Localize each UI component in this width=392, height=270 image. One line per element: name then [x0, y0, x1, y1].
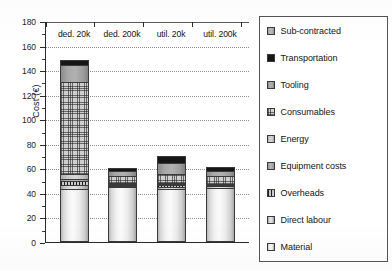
segment-direct-labour	[108, 186, 137, 188]
segment-tooling	[206, 171, 235, 176]
segment-transportation	[206, 167, 235, 171]
legend-item-direct-labour[interactable]: Direct labour	[267, 214, 331, 226]
legend-item-material[interactable]: Material	[267, 241, 312, 253]
legend-swatch-tooling-icon	[267, 81, 275, 89]
legend-label-sub-contracted: Sub-contracted	[281, 27, 341, 36]
legend-item-sub-contracted[interactable]: Sub-contracted	[267, 25, 341, 37]
legend-swatch-equipment-costs-icon	[267, 162, 275, 170]
segment-tooling	[108, 171, 137, 175]
legend-label-transportation: Transportation	[281, 54, 338, 63]
legend-label-equipment-costs: Equipment costs	[281, 162, 347, 171]
y-tick-label-60: 60	[2, 165, 36, 174]
chart-figure: Cost (€) 180 160 140 120 100 80 60 40 20…	[0, 0, 392, 270]
segment-material	[157, 189, 186, 242]
plot-area: ded. 20k ded. 200k util. 20k util. 200k	[45, 22, 249, 243]
segment-equipment-costs	[206, 184, 235, 185]
segment-equipment-costs	[60, 179, 89, 181]
segment-overheads	[108, 185, 137, 186]
legend-item-transportation[interactable]: Transportation	[267, 52, 338, 64]
legend-swatch-direct-labour-icon	[267, 216, 275, 224]
legend-item-overheads[interactable]: Overheads	[267, 187, 324, 199]
segment-equipment-costs	[108, 184, 137, 185]
segment-transportation	[157, 156, 186, 163]
segment-tooling	[60, 65, 89, 82]
y-tick-label-0: 0	[2, 239, 36, 248]
segment-transportation	[60, 60, 89, 66]
gridline-180	[46, 22, 249, 23]
segment-direct-labour	[206, 186, 235, 188]
segment-energy	[60, 174, 89, 178]
legend-swatch-overheads-icon	[267, 189, 275, 197]
segment-direct-labour	[157, 187, 186, 189]
segment-material	[206, 188, 235, 242]
y-tick-label-20: 20	[2, 214, 36, 223]
gridline-160	[46, 47, 249, 48]
segment-consumables	[157, 174, 186, 183]
x-tick-mark-1	[94, 22, 95, 27]
legend-item-energy[interactable]: Energy	[267, 133, 309, 145]
legend-label-consumables: Consumables	[281, 108, 335, 117]
segment-direct-labour	[60, 185, 89, 189]
legend-label-direct-labour: Direct labour	[281, 216, 331, 225]
legend-item-tooling[interactable]: Tooling	[267, 79, 309, 91]
segment-overheads	[60, 181, 89, 185]
segment-equipment-costs	[157, 184, 186, 185]
segment-energy	[157, 183, 186, 184]
y-tick-label-80: 80	[2, 141, 36, 150]
y-tick-label-100: 100	[2, 116, 36, 125]
legend-swatch-energy-icon	[267, 135, 275, 143]
x-axis-label-util-200k: util. 200k	[183, 29, 257, 39]
x-tick-mark-3	[192, 22, 193, 27]
chart-legend: Sub-contracted Transportation Tooling Co…	[259, 16, 388, 262]
segment-consumables	[60, 82, 89, 174]
x-tick-mark-4	[241, 22, 242, 27]
legend-item-equipment-costs[interactable]: Equipment costs	[267, 160, 346, 172]
legend-label-overheads: Overheads	[281, 189, 325, 198]
segment-overheads	[206, 185, 235, 186]
legend-swatch-sub-contracted-icon	[267, 27, 275, 35]
y-tick-label-120: 120	[2, 92, 36, 101]
y-tick-label-40: 40	[2, 190, 36, 199]
legend-swatch-consumables-icon	[267, 108, 275, 116]
segment-consumables	[206, 176, 235, 184]
x-tick-mark-2	[143, 22, 144, 27]
segment-material	[60, 189, 89, 242]
legend-label-tooling: Tooling	[281, 81, 309, 90]
legend-swatch-transportation-icon	[267, 54, 275, 62]
legend-item-consumables[interactable]: Consumables	[267, 106, 335, 118]
y-tick-mark-0	[40, 243, 45, 244]
legend-label-material: Material	[281, 243, 313, 252]
y-tick-label-140: 140	[2, 67, 36, 76]
segment-overheads	[157, 185, 186, 186]
segment-material	[108, 187, 137, 242]
legend-swatch-material-icon	[267, 243, 275, 251]
segment-transportation	[108, 168, 137, 171]
y-tick-label-180: 180	[2, 18, 36, 27]
legend-label-energy: Energy	[281, 135, 309, 144]
x-tick-mark-0	[46, 22, 47, 27]
segment-consumables	[108, 176, 137, 183]
y-tick-label-160: 160	[2, 43, 36, 52]
segment-tooling	[157, 163, 186, 174]
